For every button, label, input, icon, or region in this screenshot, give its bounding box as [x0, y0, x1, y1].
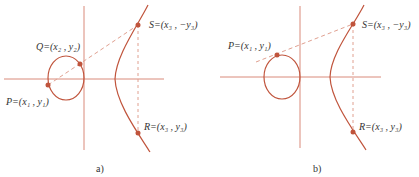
point-s: [136, 23, 141, 28]
label-r: R=(x₃ , y₃): [358, 121, 403, 133]
point-p: [46, 83, 51, 88]
label-s: S=(x₃ , −y₃): [149, 19, 198, 31]
elliptic-curve-diagram: Q=(x₂ , y₂) P=(x₁ , y₁) S=(x₃ , −y₃) R=(…: [0, 0, 419, 177]
point-s: [351, 22, 356, 27]
point-p: [275, 53, 280, 58]
label-r: R=(x₃ , y₃): [143, 121, 188, 133]
point-r: [136, 131, 141, 136]
point-q: [78, 62, 83, 67]
caption-b: b): [313, 163, 321, 175]
secant-line: [48, 25, 138, 85]
label-p: P=(x₁ , y₁): [227, 40, 272, 52]
label-q: Q=(x₂ , y₂): [36, 41, 81, 53]
point-r: [351, 130, 356, 135]
label-s: S=(x₃ , −y₃): [362, 19, 411, 31]
panel-a: Q=(x₂ , y₂) P=(x₁ , y₁) S=(x₃ , −y₃) R=(…: [4, 5, 198, 175]
panel-b: P=(x₁ , y₁) S=(x₃ , −y₃) R=(x₃ , y₃) b): [220, 5, 411, 175]
label-p: P=(x₁ , y₁): [5, 96, 50, 108]
caption-a: a): [96, 163, 104, 175]
